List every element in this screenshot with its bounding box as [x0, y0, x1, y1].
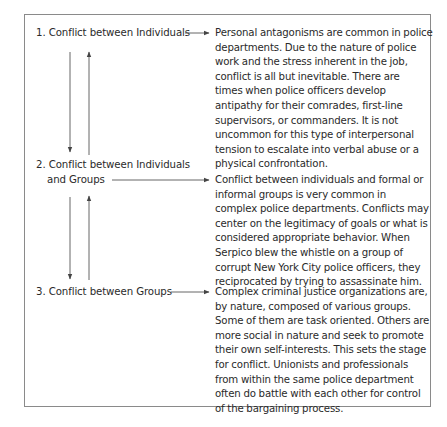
item-2-description: Conflict between individuals and formal …	[215, 173, 430, 290]
description-line: informal groups is very common in	[215, 188, 430, 203]
description-line: more social in nature and seek to promot…	[215, 329, 430, 344]
item-2-label-continued: and Groups	[47, 173, 105, 188]
description-line: times when police officers develop	[215, 84, 430, 99]
description-line: Conflict between individuals and formal …	[215, 173, 430, 188]
item-3-label: 3. Conflict between Groups	[36, 285, 172, 300]
description-line: uncommon for this type of interpersonal	[215, 128, 430, 143]
item-2-label-line: and Groups	[47, 174, 105, 185]
item-3-label-line: 3. Conflict between Groups	[36, 286, 172, 297]
description-line: from within the same police department	[215, 373, 430, 388]
description-line: Personal antagonisms are common in polic…	[215, 26, 430, 41]
description-line: complex police departments. Conflicts ma…	[215, 202, 430, 217]
description-line: antipathy for their comrades, first-line	[215, 99, 430, 114]
description-line: center on the legitimacy of goals or wha…	[215, 217, 430, 232]
description-line: Serpico blew the whistle on a group of	[215, 246, 430, 261]
item-1-description: Personal antagonisms are common in polic…	[215, 26, 430, 172]
description-line: Some of them are task oriented. Others a…	[215, 314, 430, 329]
description-line: Complex criminal justice organizations a…	[215, 285, 430, 300]
description-line: of the bargaining process.	[215, 402, 430, 417]
description-line: conflict is all but inevitable. There ar…	[215, 70, 430, 85]
description-line: corrupt New York City police officers, t…	[215, 261, 430, 276]
description-line: often do battle with each other for cont…	[215, 387, 430, 402]
item-1-label: 1. Conflict between Individuals	[36, 26, 190, 41]
description-line: tension to escalate into verbal abuse or…	[215, 143, 430, 158]
description-line: departments. Due to the nature of police	[215, 41, 430, 56]
item-2-label: 2. Conflict between Individuals	[36, 158, 190, 173]
item-2-label-line: 2. Conflict between Individuals	[36, 159, 190, 170]
item-1-label-line: 1. Conflict between Individuals	[36, 27, 190, 38]
description-line: work and the stress inherent in the job,	[215, 55, 430, 70]
description-line: supervisors, or commanders. It is not	[215, 114, 430, 129]
description-line: their own self-interests. This sets the …	[215, 343, 430, 358]
description-line: physical confrontation.	[215, 157, 430, 172]
description-line: for conflict. Unionists and professional…	[215, 358, 430, 373]
description-line: by nature, composed of various groups.	[215, 300, 430, 315]
description-line: considered appropriate behavior. When	[215, 231, 430, 246]
item-3-description: Complex criminal justice organizations a…	[215, 285, 430, 416]
